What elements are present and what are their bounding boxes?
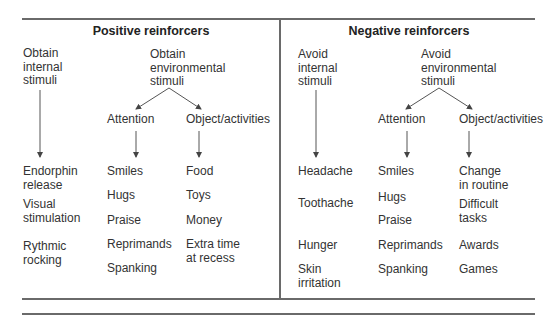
list-item: Spanking [378, 263, 428, 277]
list-item: Change in routine [459, 165, 508, 192]
list-item: Toothache [298, 197, 353, 211]
positive-object-header: Object/activities [186, 113, 270, 127]
list-item: Hugs [378, 191, 406, 205]
list-item: Awards [459, 239, 499, 253]
list-item: Money [186, 214, 222, 228]
list-item: Skin irritation [298, 263, 341, 290]
list-item: Difficult tasks [459, 198, 498, 225]
list-item: Praise [107, 214, 141, 228]
negative-reinforcers-title: Negative reinforcers [349, 24, 470, 38]
list-item: Rythmic rocking [23, 240, 66, 267]
list-item: Hugs [107, 189, 135, 203]
positive-reinforcers-title: Positive reinforcers [93, 24, 210, 38]
obtain-internal-stimuli: Obtain internal stimuli [23, 47, 62, 88]
list-item: Headache [298, 165, 353, 179]
list-item: Extra time at recess [186, 238, 240, 265]
list-item: Games [459, 263, 498, 277]
list-item: Visual stimulation [23, 198, 80, 225]
positive-attention-header: Attention [107, 113, 154, 127]
list-item: Hunger [298, 239, 337, 253]
negative-attention-header: Attention [378, 113, 425, 127]
list-item: Praise [378, 214, 412, 228]
obtain-environmental-stimuli: Obtain environmental stimuli [150, 48, 225, 89]
list-item: Smiles [378, 165, 414, 179]
arrow-pos-env-to-attention [136, 88, 169, 109]
arrow-neg-env-to-object [439, 88, 472, 109]
list-item: Spanking [107, 262, 157, 276]
list-item: Reprimands [107, 238, 172, 252]
arrow-neg-env-to-attention [406, 88, 439, 109]
negative-object-header: Object/activities [459, 113, 543, 127]
list-item: Food [186, 165, 213, 179]
avoid-environmental-stimuli: Avoid environmental stimuli [421, 48, 496, 89]
avoid-internal-stimuli: Avoid internal stimuli [298, 48, 337, 89]
list-item: Endorphin release [23, 165, 78, 192]
list-item: Smiles [107, 165, 143, 179]
list-item: Toys [186, 189, 211, 203]
list-item: Reprimands [378, 239, 443, 253]
arrow-pos-env-to-object [169, 88, 201, 109]
